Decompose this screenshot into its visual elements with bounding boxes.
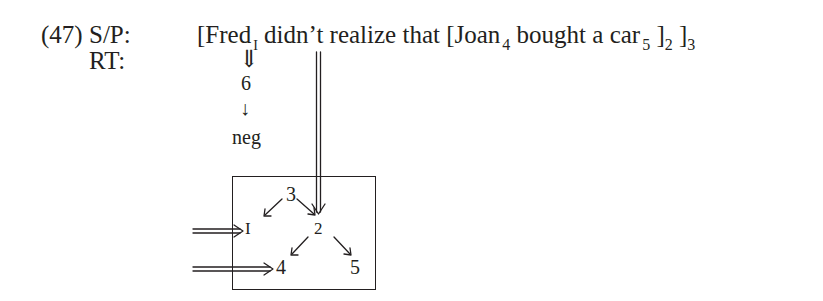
arrow-3-to-2-icon bbox=[297, 199, 315, 215]
arrow-2-to-5-icon bbox=[334, 237, 351, 255]
double-right-arrow-to-1-icon bbox=[193, 225, 243, 237]
arrow-3-to-1-icon bbox=[264, 199, 282, 216]
long-double-down-arrow-icon bbox=[312, 52, 325, 214]
arrows-layer bbox=[0, 0, 823, 301]
double-right-arrow-to-4-icon bbox=[193, 263, 273, 275]
arrow-2-to-4-icon bbox=[291, 237, 308, 255]
